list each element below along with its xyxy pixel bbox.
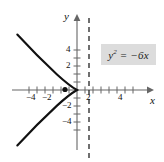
equation-label-text: y2 = −6x	[108, 48, 149, 61]
focus-point	[62, 87, 67, 92]
x-tick-label-neg4: −4	[26, 92, 36, 102]
y-tick-label-2: 2	[66, 60, 71, 70]
equation-relation: =	[117, 49, 131, 61]
y-axis-arrowhead	[74, 14, 81, 21]
plot-canvas	[0, 0, 164, 162]
x-axis-label: x	[150, 94, 155, 106]
x-tick-label-neg2: −2	[42, 92, 52, 102]
y-axis-label: y	[64, 10, 69, 22]
x-tick-label-2: 2	[86, 92, 91, 102]
x-axis-arrowhead	[147, 87, 154, 94]
parabola-figure: −4 −2 2 4 4 2 −2 −4 x y y2 = −6x	[0, 0, 164, 162]
y-tick-label-neg2: −2	[62, 100, 72, 110]
x-tick-label-4: 4	[118, 92, 123, 102]
y-tick-label-neg4: −4	[62, 116, 72, 126]
equation-label-box: y2 = −6x	[101, 44, 156, 65]
y-tick-label-4: 4	[66, 44, 71, 54]
equation-right-side: −6x	[130, 49, 148, 61]
